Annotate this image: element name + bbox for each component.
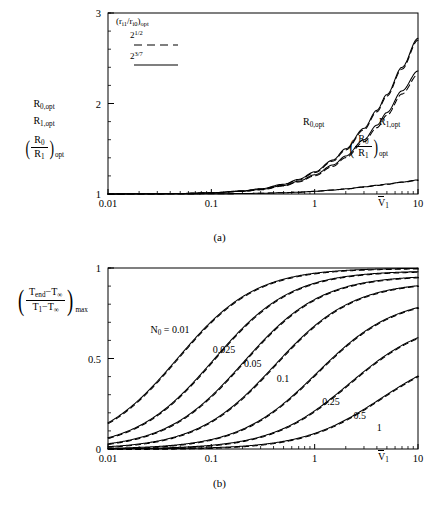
- svg-text:0.1: 0.1: [205, 198, 218, 209]
- curve-label-value: 0.01: [172, 324, 190, 335]
- paren-open: (: [349, 134, 354, 159]
- curve-label-N0-0p1: 0.1: [277, 373, 290, 385]
- svg-text:2: 2: [96, 99, 101, 110]
- curve-label-equals: =: [161, 324, 172, 335]
- ylabel-ratio: (R0R1)opt: [24, 134, 64, 162]
- curve-label-N0-0p5: 0.5: [353, 410, 366, 422]
- svg-text:0.5: 0.5: [88, 354, 101, 365]
- panel-b-caption: (b): [0, 477, 439, 489]
- curve-label-N0-0p05: 0.05: [244, 358, 262, 370]
- curve-label-N0-0p025: 0.025: [213, 344, 236, 356]
- panel-b-yaxis-label: (Tend−T∞T1−T∞)max: [16, 283, 88, 318]
- svg-text:0: 0: [96, 444, 101, 455]
- curve-label-value: 0.5: [353, 410, 366, 421]
- panel-a: 0.010.1110123 R0,opt R1,opt (R0R1)opt (r…: [0, 0, 439, 255]
- curve-label-N0-0p25: 0.25: [322, 396, 340, 408]
- panel-b-xaxis-label: V1: [378, 451, 389, 464]
- paren-close: ): [373, 134, 378, 159]
- legend-title: (ri1/ri0)opt: [116, 16, 178, 27]
- curve-label-N0-1: 1: [377, 422, 382, 434]
- curve-label-N0-0p01: N0 = 0.01: [151, 324, 190, 337]
- svg-text:1: 1: [96, 189, 101, 200]
- paren-close: ): [49, 135, 54, 160]
- svg-text:0.1: 0.1: [205, 453, 218, 464]
- paren-close: ): [67, 283, 73, 318]
- svg-text:1: 1: [312, 453, 317, 464]
- curve-label-value: 1: [377, 422, 382, 433]
- legend-entry-0: 21/2: [116, 29, 178, 49]
- panel-a-xaxis-label: V1: [378, 197, 389, 210]
- svg-text:0.01: 0.01: [99, 453, 117, 464]
- svg-text:3: 3: [96, 8, 101, 19]
- svg-text:1: 1: [312, 198, 317, 209]
- ylabel-R0opt: R0,opt: [33, 98, 54, 109]
- annotation-R1opt: R1,opt: [379, 116, 400, 129]
- panel-a-legend: (ri1/ri0)opt 21/2 23/7: [116, 16, 178, 69]
- ylabel-R1opt: R1,opt: [33, 115, 54, 126]
- curve-label-value: 0.1: [277, 373, 290, 384]
- curve-label-prefix: N0: [151, 324, 162, 335]
- annotation-ratio: (R0R1)opt: [348, 133, 388, 161]
- paren-open: (: [18, 283, 24, 318]
- panel-a-caption: (a): [0, 231, 439, 243]
- panel-a-yaxis-label: R0,opt R1,opt (R0R1)opt: [24, 98, 64, 161]
- svg-text:10: 10: [413, 453, 424, 464]
- legend-entry-1: 23/7: [116, 50, 178, 70]
- curve-label-value: 0.25: [322, 396, 340, 407]
- plot-a-canvas: 0.010.1110123: [0, 0, 439, 255]
- curve-label-value: 0.05: [244, 358, 262, 369]
- panel-b: 0.010.111000.51 (Tend−T∞T1−T∞)max (ri1/r…: [0, 255, 439, 509]
- svg-text:1: 1: [96, 263, 101, 274]
- svg-text:0.01: 0.01: [99, 198, 117, 209]
- svg-text:10: 10: [413, 198, 424, 209]
- curve-label-value: 0.025: [213, 344, 236, 355]
- paren-open: (: [25, 135, 30, 160]
- annotation-R0opt: R0,opt: [303, 116, 324, 129]
